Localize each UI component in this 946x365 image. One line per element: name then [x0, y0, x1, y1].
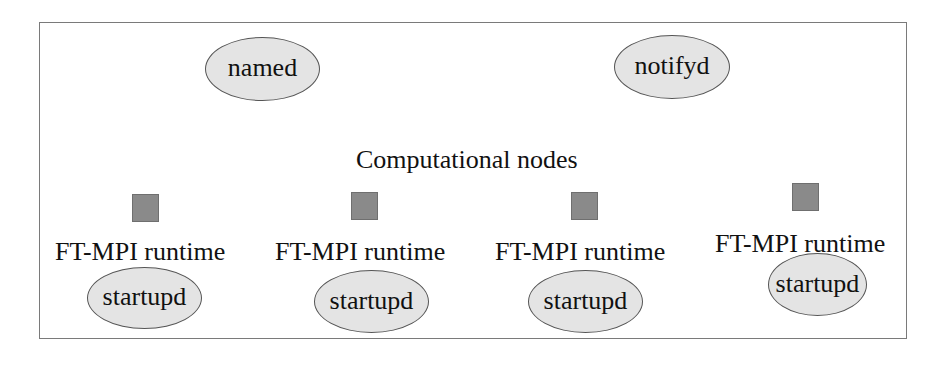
node-3-square-icon: [571, 192, 598, 220]
computational-nodes-title: Computational nodes: [356, 147, 578, 173]
node-4-startupd-ellipse: startupd: [768, 253, 867, 316]
node-4-runtime-label: FT-MPI runtime: [715, 231, 885, 257]
node-1-square-icon: [132, 194, 159, 222]
notifyd-service-ellipse: notifyd: [614, 35, 730, 99]
node-1-runtime-label: FT-MPI runtime: [55, 239, 225, 265]
node-3-runtime-label: FT-MPI runtime: [495, 239, 665, 265]
node-4-square-icon: [792, 183, 819, 211]
node-2-startupd-ellipse: startupd: [314, 270, 429, 333]
named-service-label: named: [228, 55, 297, 81]
node-3-startupd-label: startupd: [544, 288, 628, 314]
named-service-ellipse: named: [205, 37, 320, 101]
node-1-startupd-label: startupd: [103, 284, 187, 310]
notifyd-service-label: notifyd: [634, 53, 709, 79]
node-2-startupd-label: startupd: [330, 288, 414, 314]
node-3-startupd-ellipse: startupd: [528, 270, 643, 333]
node-4-startupd-label: startupd: [776, 271, 860, 297]
node-2-square-icon: [351, 192, 378, 220]
node-1-startupd-ellipse: startupd: [87, 267, 202, 329]
node-2-runtime-label: FT-MPI runtime: [275, 239, 445, 265]
